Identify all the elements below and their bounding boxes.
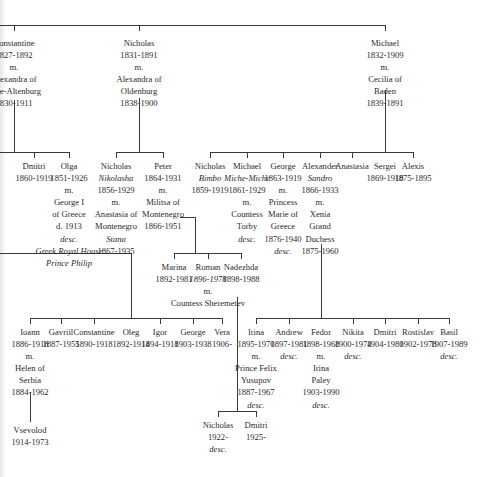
person-detail: 1831-1891	[116, 49, 161, 61]
person-detail: Duchess	[301, 233, 338, 245]
person-detail: Stana	[95, 233, 138, 245]
connector-line	[139, 25, 140, 31]
connector-line	[353, 318, 354, 324]
person-node-olga: Olga1851-1926m.George Iof Greeced. 1913d…	[36, 160, 103, 269]
connector-line	[174, 253, 175, 259]
person-detail: 1887-1967	[235, 386, 277, 398]
connector-line	[61, 318, 62, 324]
connector-line	[210, 152, 414, 153]
person-node-igor: Igor1894-1918	[141, 326, 178, 350]
person-node-constantine: Constantine1827-1892m.Alexandra ofSaxe-A…	[0, 37, 41, 110]
person-detail: Torby	[224, 220, 270, 232]
person-detail: Alexandra of	[116, 73, 161, 85]
person-node-constantine-k: Constantine1890-1918	[73, 326, 114, 350]
connector-line	[413, 152, 414, 158]
person-detail: 1861-1929	[224, 184, 270, 196]
connector-line	[256, 411, 257, 417]
person-name: Constantine	[73, 326, 114, 338]
person-node-basil: Basil1907-1989desc.	[430, 326, 467, 362]
person-detail: 1866-1933	[301, 184, 338, 196]
person-detail: Anastasia of	[95, 208, 138, 220]
person-node-george-m: George1863-1919m.PrincessMarie ofGreece1…	[264, 160, 301, 257]
person-detail: 1907-1989	[430, 338, 467, 350]
person-detail: 1856-1929	[95, 184, 138, 196]
person-detail: m.	[95, 196, 138, 208]
person-detail: m.	[224, 196, 270, 208]
person-name: Constantine	[0, 37, 41, 49]
person-detail: 1922-	[203, 431, 234, 443]
person-name: George	[174, 326, 211, 338]
person-node-nadezhda: Nadezhda1898-1988	[222, 261, 259, 285]
person-detail: m.	[36, 184, 103, 196]
person-name: Vsevolod	[11, 424, 48, 436]
connector-line	[418, 318, 419, 324]
person-detail: desc.	[224, 233, 270, 245]
person-node-dmitri-a: Dmitri1904-1980	[366, 326, 403, 350]
person-detail: desc.	[235, 399, 277, 411]
connector-line	[385, 318, 386, 324]
connector-line	[218, 411, 219, 417]
connector-line	[94, 318, 95, 324]
person-detail: Nikolasha	[95, 172, 138, 184]
connector-line	[193, 318, 194, 324]
connector-line	[222, 318, 223, 324]
person-node-peter: Peter1864-1931m.Militsa ofMontenegro1866…	[142, 160, 184, 233]
person-detail: Montenegro	[142, 208, 184, 220]
person-name: Michael	[366, 37, 403, 49]
person-detail: 1925-	[245, 431, 268, 443]
person-detail: 1838-1900	[116, 97, 161, 109]
person-detail: desc.	[430, 350, 467, 362]
person-detail: Bimbo	[191, 172, 228, 184]
person-detail: desc.	[36, 233, 103, 245]
person-node-alexis: Alexis1875-1895	[394, 160, 431, 184]
connector-line	[283, 152, 284, 158]
person-detail: desc.	[302, 399, 339, 411]
person-node-michael: Michael1832-1909m.Cecilia ofBaden1839-18…	[366, 37, 403, 110]
person-detail: Serbia	[11, 374, 48, 386]
person-detail: 1903-1938	[174, 338, 211, 350]
connector-line	[160, 318, 161, 324]
person-name: Peter	[142, 160, 184, 172]
person-detail: 1827-1892	[0, 49, 41, 61]
person-name: Igor	[141, 326, 178, 338]
connector-line	[208, 253, 209, 259]
person-detail: Xenia	[301, 208, 338, 220]
person-detail: 1859-1919	[191, 184, 228, 196]
connector-line	[210, 152, 211, 158]
person-detail: m.	[116, 61, 161, 73]
person-detail: Prince Philip	[36, 257, 103, 269]
person-detail: 1867-1935	[95, 245, 138, 257]
connector-line	[385, 25, 386, 31]
connector-line	[34, 152, 35, 158]
person-name: Dmitri	[245, 419, 268, 431]
person-node-dmitri-r: Dmitri1925-	[245, 419, 268, 443]
person-node-anastasia: Anastasia	[335, 160, 368, 172]
person-detail: 1904-1980	[366, 338, 403, 350]
connector-line	[14, 25, 15, 31]
connector-line	[116, 152, 117, 158]
person-detail: m.	[0, 61, 41, 73]
person-detail: 1903-1990	[302, 386, 339, 398]
person-detail: Oldenburg	[116, 85, 161, 97]
person-detail: m.	[366, 61, 403, 73]
person-detail: 1875-1895	[394, 172, 431, 184]
person-detail: m.	[264, 184, 301, 196]
person-detail: of Greece	[36, 208, 103, 220]
person-detail: Sandro	[301, 172, 338, 184]
person-node-vera: Vera1906-	[212, 326, 232, 350]
person-name: Alexander	[301, 160, 338, 172]
person-detail: 1884-1962	[11, 386, 48, 398]
person-name: Vera	[212, 326, 232, 338]
person-name: Nicholas	[203, 419, 234, 431]
person-name: Dmitri	[366, 326, 403, 338]
person-detail: Helen of	[11, 362, 48, 374]
connector-line	[289, 318, 290, 324]
connector-line	[163, 152, 164, 158]
connector-line	[320, 152, 321, 158]
connector-line	[131, 253, 132, 318]
connector-line	[449, 318, 450, 324]
person-detail: Yusupov	[235, 374, 277, 386]
person-detail: Saxe-Altenburg	[0, 85, 41, 97]
person-node-nicholas-m: NicholasBimbo1859-1919	[191, 160, 228, 196]
connector-line	[69, 152, 70, 158]
